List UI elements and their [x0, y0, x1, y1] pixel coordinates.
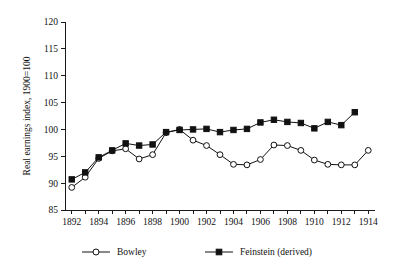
x-tick-label: 1912 [332, 217, 351, 227]
x-tick-label: 1892 [62, 217, 81, 227]
x-tick-label: 1910 [305, 217, 324, 227]
data-point-marker [352, 110, 357, 115]
data-point-marker [136, 156, 142, 162]
x-tick-label: 1898 [143, 217, 162, 227]
data-point-marker [83, 170, 88, 175]
data-point-marker [338, 162, 344, 168]
x-tick-label: 1904 [224, 217, 243, 227]
data-point-marker [69, 177, 74, 182]
x-tick-label: 1900 [170, 217, 189, 227]
legend-label: Bowley [117, 247, 147, 257]
y-axis-title-text: Real earnings index, 1900=100 [22, 56, 32, 175]
data-point-marker [339, 122, 344, 127]
data-point-marker [217, 152, 223, 158]
x-tick-label: 1902 [197, 217, 216, 227]
y-tick-label: 105 [44, 98, 59, 108]
data-point-marker [177, 127, 182, 132]
data-point-marker [96, 155, 101, 160]
data-point-marker [325, 161, 331, 167]
data-point-marker [204, 143, 210, 149]
x-tick-label: 1906 [251, 217, 270, 227]
data-point-marker [285, 119, 290, 124]
data-point-marker [244, 126, 249, 131]
data-point-marker [298, 120, 303, 125]
data-point-marker [190, 137, 196, 143]
data-point-marker [231, 127, 236, 132]
data-point-marker [231, 161, 237, 167]
data-point-marker [258, 120, 263, 125]
y-tick-label: 115 [44, 44, 58, 54]
chart-background [0, 0, 403, 273]
x-tick-label: 1908 [278, 217, 297, 227]
data-point-marker [109, 148, 114, 153]
chart-figure: 859095100105110115120 189218941896189819… [0, 0, 403, 273]
y-tick-label: 95 [49, 152, 59, 162]
x-tick-label: 1896 [116, 217, 135, 227]
data-point-marker [150, 152, 156, 158]
data-point-marker [352, 162, 358, 168]
y-tick-label: 120 [44, 17, 59, 27]
data-point-marker [365, 147, 371, 153]
data-point-marker [284, 143, 290, 149]
data-point-marker [298, 147, 304, 153]
data-point-marker [163, 129, 168, 134]
data-point-marker [123, 141, 128, 146]
data-point-marker [312, 126, 317, 131]
data-point-marker [217, 129, 222, 134]
data-point-marker [271, 117, 276, 122]
y-tick-label: 85 [49, 205, 59, 215]
legend-marker [216, 249, 222, 255]
data-point-marker [325, 119, 330, 124]
x-tick-label: 1914 [359, 217, 378, 227]
data-point-marker [258, 157, 264, 163]
y-tick-label: 100 [44, 125, 59, 135]
y-axis-title: Real earnings index, 1900=100 [22, 56, 32, 175]
data-point-marker [244, 162, 250, 168]
data-point-marker [271, 142, 277, 148]
data-point-marker [123, 146, 129, 152]
data-point-marker [204, 126, 209, 131]
legend-label: Feinstein (derived) [240, 247, 312, 258]
data-point-marker [136, 143, 141, 148]
x-tick-label: 1894 [89, 217, 108, 227]
chart-canvas: 859095100105110115120 189218941896189819… [0, 0, 403, 273]
data-point-marker [190, 127, 195, 132]
y-tick-label: 90 [49, 179, 59, 189]
data-point-marker [311, 157, 317, 163]
legend-marker [93, 249, 99, 255]
data-point-marker [150, 142, 155, 147]
y-tick-label: 110 [44, 71, 58, 81]
data-point-marker [69, 185, 75, 191]
